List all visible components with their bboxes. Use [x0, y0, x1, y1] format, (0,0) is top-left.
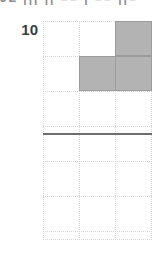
- gridline-h-2: [43, 91, 152, 92]
- data-cell-r1c3: [115, 21, 152, 56]
- gridline-h-3: [43, 126, 152, 127]
- clipped-header-text: JZ ||| || == | == ||=: [0, 0, 166, 7]
- gridline-h-6: [43, 231, 152, 232]
- gridline-v-0: [43, 21, 44, 240]
- reference-line: [43, 133, 152, 135]
- y-axis-tick-label-10: 10: [2, 22, 38, 37]
- gridline-h-7: [43, 239, 152, 240]
- gridline-h-4: [43, 161, 152, 162]
- gridline-v-1: [79, 21, 80, 240]
- data-cell-r2c3: [115, 56, 152, 91]
- data-cell-r2c2: [79, 56, 116, 91]
- plot-area: [43, 21, 152, 240]
- chart-canvas: JZ ||| || == | == ||= 10: [0, 0, 166, 257]
- gridline-h-5: [43, 196, 152, 197]
